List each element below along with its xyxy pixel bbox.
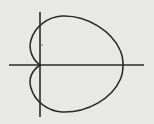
cardioid-figure bbox=[0, 0, 154, 124]
cardioid-curve bbox=[30, 16, 123, 112]
cardioid-diagram bbox=[0, 0, 154, 124]
